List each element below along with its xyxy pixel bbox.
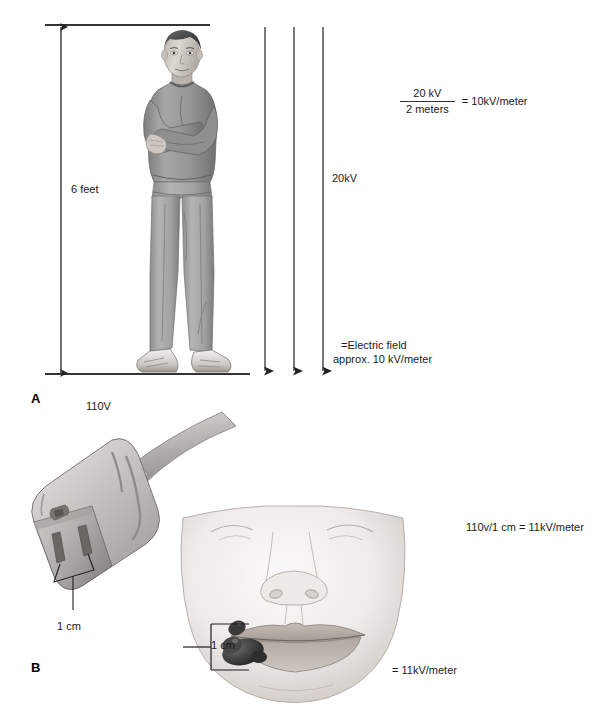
mouth-gap-label: 1 cm bbox=[211, 639, 235, 652]
panel-label-b: B bbox=[31, 660, 40, 675]
plug-gap-label: 1 cm bbox=[57, 620, 81, 633]
infant-face-illustration bbox=[175, 502, 425, 710]
panel-b-result: = 11kV/meter bbox=[392, 664, 457, 677]
equation-fraction: 20 kV 2 meters bbox=[400, 87, 455, 116]
field-note-line1: =Electric field bbox=[341, 339, 407, 352]
standing-man-illustration bbox=[120, 22, 250, 374]
equation-result: = 10kV/meter bbox=[462, 95, 528, 108]
panel-a: 6 feet bbox=[0, 0, 599, 392]
figure-root: 6 feet bbox=[0, 0, 599, 716]
field-equation: 20 kV 2 meters = 10kV/meter bbox=[400, 87, 528, 116]
field-voltage-label: 20kV bbox=[332, 172, 357, 185]
height-dimension-arrow bbox=[46, 22, 76, 378]
electric-field-arrows bbox=[255, 22, 340, 382]
height-label: 6 feet bbox=[71, 183, 99, 196]
panel-b: 110V bbox=[0, 392, 599, 716]
field-note-line2: approx. 10 kV/meter bbox=[333, 353, 432, 366]
equation-numerator: 20 kV bbox=[400, 87, 455, 101]
equation-denominator: 2 meters bbox=[400, 102, 455, 116]
panel-b-equation: 110v/1 cm = 11kV/meter bbox=[466, 521, 584, 534]
